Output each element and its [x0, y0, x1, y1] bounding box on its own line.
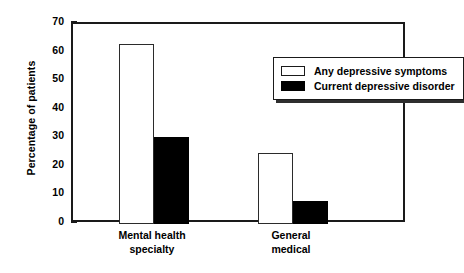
x-axis-category-label: General medical [231, 229, 351, 256]
y-tick-label: 10 [28, 186, 64, 199]
x-axis-category-label: Mental health specialty [92, 229, 212, 256]
y-tick-label: 20 [28, 158, 64, 171]
legend-swatch [281, 81, 305, 91]
y-tick-label: 30 [28, 129, 64, 142]
y-tick-label: 60 [28, 44, 64, 57]
bar [119, 44, 154, 224]
y-tick-label: 50 [28, 72, 64, 85]
y-axis-title: Percentage of patients [25, 33, 37, 203]
plot-area: Any depressive symptomsCurrent depressiv… [71, 22, 405, 222]
legend-item: Current depressive disorder [281, 79, 455, 93]
chart-legend: Any depressive symptomsCurrent depressiv… [273, 57, 464, 100]
y-tick-label: 70 [28, 15, 64, 28]
y-tick-label: 0 [28, 215, 64, 228]
legend-label: Current depressive disorder [314, 80, 455, 93]
legend-label: Any depressive symptoms [314, 65, 447, 78]
legend-item: Any depressive symptoms [281, 64, 455, 78]
bar [293, 201, 328, 224]
y-tick-label: 40 [28, 101, 64, 114]
legend-swatch [281, 66, 305, 76]
bar [154, 137, 189, 224]
bar [258, 153, 293, 224]
